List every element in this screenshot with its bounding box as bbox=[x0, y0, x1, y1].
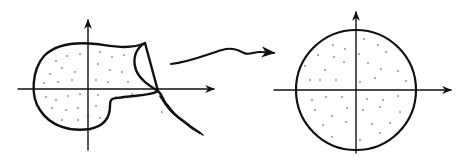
irregular-region-outline bbox=[34, 43, 200, 133]
left-panel bbox=[18, 20, 214, 150]
conformal-mapping-figure bbox=[0, 0, 469, 163]
right-panel bbox=[274, 12, 451, 153]
wavy-mapping-arrow bbox=[171, 49, 274, 64]
left-region-dots bbox=[43, 51, 163, 121]
wavy-tail bbox=[160, 96, 203, 135]
